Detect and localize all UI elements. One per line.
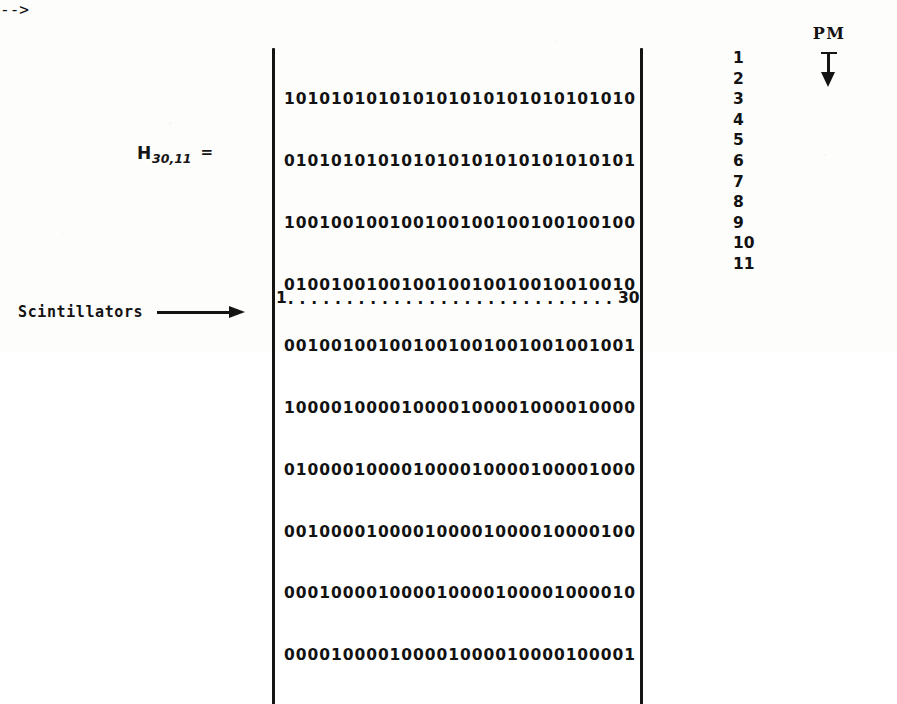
matrix-subscript: 30,11 [152, 151, 192, 166]
pm-caption: PM [806, 24, 852, 88]
matrix-row: 100001000010000100001000010000 [284, 398, 636, 419]
matrix-row: 001000010000100001000010000100 [284, 522, 636, 543]
matrix-right-bracket [640, 48, 643, 704]
arrow-down-icon [818, 52, 840, 88]
matrix-row: 010101010101010101010101010101 [284, 151, 636, 172]
scintillators-caption: Scintillators [18, 303, 245, 321]
row-index-label: 10 [733, 233, 755, 254]
matrix-block: 101010101010101010101010101010 010101010… [272, 48, 643, 704]
arrow-down-head [821, 72, 835, 87]
row-index-label: 1 [733, 48, 755, 69]
row-index-label: 8 [733, 192, 755, 213]
row-index-label: 9 [733, 213, 755, 234]
row-index-label: 6 [733, 151, 755, 172]
arrow-right-head [229, 306, 245, 318]
scintillators-label: Scintillators [18, 303, 143, 321]
matrix-row: 010000100001000010000100001000 [284, 460, 636, 481]
matrix-row: 101010101010101010101010101010 [284, 89, 636, 110]
matrix-left-bracket [272, 48, 275, 704]
scale-start-label: 1 [276, 289, 287, 307]
arrow-down-shaft [827, 53, 830, 74]
scintillator-scale: 1............................30 [276, 289, 639, 307]
matrix-row-index-column: 1 2 3 4 5 6 7 8 9 10 11 [733, 48, 755, 275]
matrix-row: 000010000100001000010000100001 [284, 645, 636, 666]
row-index-label: 2 [733, 69, 755, 90]
pm-label: PM [806, 24, 852, 43]
row-index-label: 5 [733, 130, 755, 151]
row-index-label: 4 [733, 110, 755, 131]
scale-end-label: 30 [618, 289, 640, 307]
scale-dots: ............................ [287, 292, 618, 307]
matrix-symbol: H [137, 143, 152, 163]
matrix-inner: 101010101010101010101010101010 010101010… [272, 48, 643, 704]
row-index-label: 11 [733, 254, 755, 275]
row-index-label: 7 [733, 172, 755, 193]
row-index-label: 3 [733, 89, 755, 110]
arrow-right-shaft [157, 311, 231, 314]
matrix-rows: 101010101010101010101010101010 010101010… [284, 48, 636, 704]
matrix-row: 100100100100100100100100100100 [284, 213, 636, 234]
equals-sign: = [192, 143, 214, 161]
matrix-label: H30,11= [137, 143, 213, 166]
matrix-row: 000100001000010000100001000010 [284, 583, 636, 604]
arrow-right-icon [157, 305, 245, 319]
matrix-row: 001001001001001001001001001001 [284, 336, 636, 357]
